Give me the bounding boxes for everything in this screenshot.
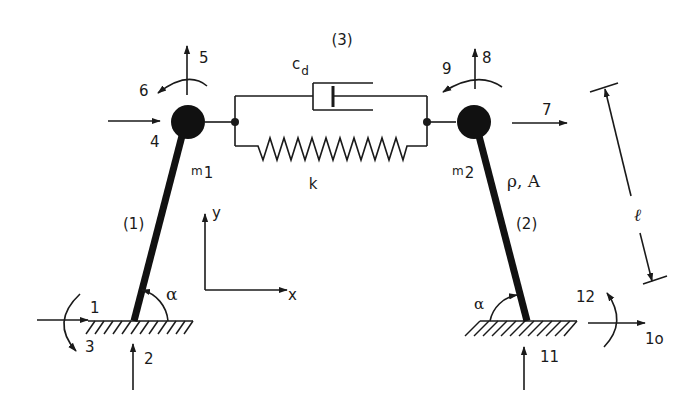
- spring-label: k: [309, 175, 318, 193]
- dof-11-arrow: 11: [524, 347, 559, 390]
- svg-text:9: 9: [442, 60, 452, 78]
- left-ground-support: [86, 321, 193, 334]
- dof-9-rotation-arrow: 9: [442, 60, 502, 92]
- spring: [235, 138, 427, 160]
- dof-6-rotation-arrow: 6: [139, 79, 207, 100]
- spring-damper-element: [205, 83, 456, 160]
- svg-text:7: 7: [542, 101, 552, 119]
- svg-text:3: 3: [85, 338, 95, 356]
- member-3-label: (3): [331, 31, 352, 49]
- right-ground-support: [465, 321, 577, 336]
- angle-alpha-right: α: [474, 295, 484, 313]
- svg-text:12: 12: [576, 288, 595, 306]
- right-angle-indicator: α: [474, 295, 517, 321]
- dof-10-arrow: 1o: [588, 323, 664, 348]
- bar-properties-label: ρ, A: [507, 171, 541, 191]
- dof-5-arrow: 5: [187, 46, 209, 95]
- dof-7-arrow: 7: [512, 101, 567, 123]
- mass-1-label: m1: [191, 164, 213, 182]
- svg-text:8: 8: [482, 49, 492, 67]
- mass-1-node: [171, 105, 205, 139]
- svg-text:1o: 1o: [645, 330, 664, 348]
- member-2-label: (2): [516, 215, 537, 233]
- svg-text:5: 5: [199, 49, 209, 67]
- dof-4-arrow: 4: [108, 121, 160, 151]
- mass-2-node: [457, 105, 491, 139]
- x-axis-label: x: [288, 286, 297, 304]
- member-1-label: (1): [123, 215, 144, 233]
- svg-text:6: 6: [139, 82, 149, 100]
- svg-text:2: 2: [144, 350, 154, 368]
- left-angle-indicator: α: [142, 284, 178, 321]
- length-label: ℓ: [634, 205, 641, 225]
- frame-diagram: (3) cd k m1 m2 ρ, A (1) (2) α α y x ℓ 4 …: [0, 0, 697, 413]
- damper: [235, 83, 427, 110]
- svg-text:1: 1: [90, 299, 100, 317]
- dof-8-arrow: 8: [475, 49, 492, 89]
- coordinate-axes: y x: [205, 204, 297, 304]
- angle-alpha-left: α: [166, 284, 178, 304]
- mass-2-label: m2: [452, 164, 474, 182]
- dof-12-rotation-arrow: 12: [576, 288, 617, 347]
- y-axis-label: y: [212, 204, 221, 222]
- svg-text:11: 11: [540, 348, 559, 366]
- dof-2-arrow: 2: [133, 344, 154, 390]
- svg-text:4: 4: [150, 133, 160, 151]
- length-dimension: ℓ: [590, 83, 667, 284]
- damper-label: cd: [292, 55, 309, 78]
